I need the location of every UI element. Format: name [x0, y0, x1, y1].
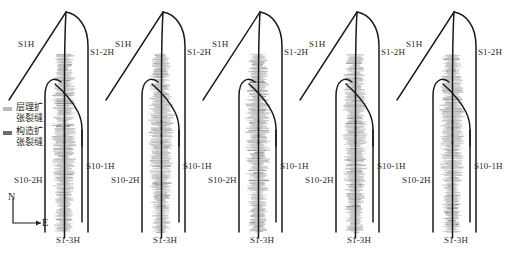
well-label-s1-3h-4: S1-3H [444, 236, 468, 245]
well-label-s1h-2: S1H [212, 40, 228, 49]
well-label-s10-1h-1: S10-1H [183, 162, 212, 171]
well-label-s1h-1: S1H [115, 40, 131, 49]
well-label-s1-2h-0: S1-2H [90, 48, 114, 57]
legend-swatch-bedding-icon [3, 107, 12, 111]
well-label-s1-3h-0: S1-3H [56, 236, 80, 245]
well-trajectory-artwork [0, 0, 522, 258]
compass-north-label: N [8, 191, 15, 202]
well-label-s1-2h-2: S1-2H [284, 48, 308, 57]
well-label-s10-1h-4: S10-1H [474, 162, 503, 171]
compass-rose: N E [8, 193, 54, 235]
well-label-s1h-4: S1H [406, 40, 422, 49]
compass-east-label: E [42, 217, 48, 228]
well-label-s1-2h-4: S1-2H [478, 48, 502, 57]
well-label-s10-2h-1: S10-2H [111, 176, 140, 185]
well-label-s1-2h-1: S1-2H [187, 48, 211, 57]
legend-label-bedding: 层理扩张裂缝 [16, 102, 43, 124]
well-label-s1-3h-2: S1-3H [250, 236, 274, 245]
legend-item-structural-fracture: 构造扩张裂缝 [2, 128, 60, 152]
well-label-s10-2h-4: S10-2H [402, 176, 431, 185]
legend: 层理扩张裂缝 构造扩张裂缝 [2, 104, 60, 152]
well-label-s10-1h-2: S10-1H [280, 162, 309, 171]
well-label-s10-2h-0: S10-2H [14, 176, 43, 185]
well-label-s10-1h-3: S10-1H [377, 162, 406, 171]
figure-canvas: S1HS1-2HS10-1HS10-2HS1-3HS1HS1-2HS10-1HS… [0, 0, 522, 258]
well-label-s1-3h-1: S1-3H [153, 236, 177, 245]
well-label-s1h-0: S1H [18, 40, 34, 49]
legend-label-structural: 构造扩张裂缝 [16, 126, 43, 148]
well-label-s1-2h-3: S1-2H [381, 48, 405, 57]
well-label-s10-2h-2: S10-2H [208, 176, 237, 185]
legend-item-bedding-fracture: 层理扩张裂缝 [2, 104, 60, 128]
legend-swatch-structural-icon [3, 131, 12, 135]
well-label-s10-1h-0: S10-1H [86, 162, 115, 171]
well-label-s1-3h-3: S1-3H [347, 236, 371, 245]
well-label-s1h-3: S1H [309, 40, 325, 49]
microseismic-fracture-cloud [342, 55, 366, 233]
well-label-s10-2h-3: S10-2H [305, 176, 334, 185]
